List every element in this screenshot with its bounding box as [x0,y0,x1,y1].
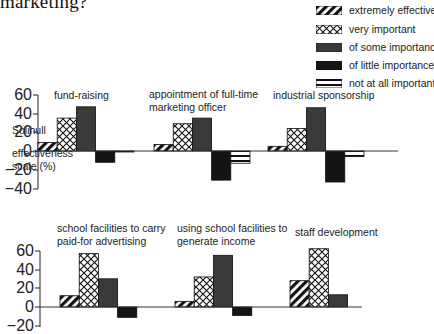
bottom-y-axis [35,251,40,327]
bar-little-importance [96,151,115,162]
bar-extremely-effective [154,144,173,151]
bar-very-important [194,277,213,307]
bar-not-important [345,151,364,157]
bar-very-important [287,128,306,151]
bar-chart-plot [0,0,434,334]
bar-some-importance [213,255,232,307]
bar-some-importance [328,295,347,307]
bar-extremely-effective [290,281,309,307]
bar-little-importance [233,307,252,315]
bar-little-importance [118,307,137,317]
bar-very-important [173,124,192,151]
bar-little-importance [212,151,231,180]
top-y-axis [33,95,38,189]
bar-extremely-effective [268,146,287,151]
bar-not-important [231,151,250,163]
bar-extremely-effective [38,143,57,151]
bar-some-importance [76,107,95,151]
bar-some-importance [306,108,325,151]
bar-very-important [79,253,98,307]
bar-very-important [309,249,328,307]
bar-very-important [57,118,76,151]
bar-extremely-effective [175,301,194,307]
bar-little-importance [326,151,345,182]
bar-some-importance [98,279,117,307]
bar-some-importance [192,118,211,151]
bar-extremely-effective [60,296,79,307]
